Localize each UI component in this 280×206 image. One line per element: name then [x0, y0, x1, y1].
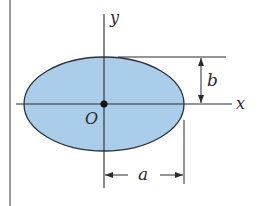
x-axis-label: x [236, 94, 245, 113]
origin-label: O [85, 109, 98, 128]
ellipse-diagram: y x O b a [0, 0, 280, 206]
origin-point [101, 101, 108, 108]
b-label: b [207, 70, 218, 90]
a-label: a [138, 164, 148, 184]
y-axis-label: y [109, 8, 120, 27]
